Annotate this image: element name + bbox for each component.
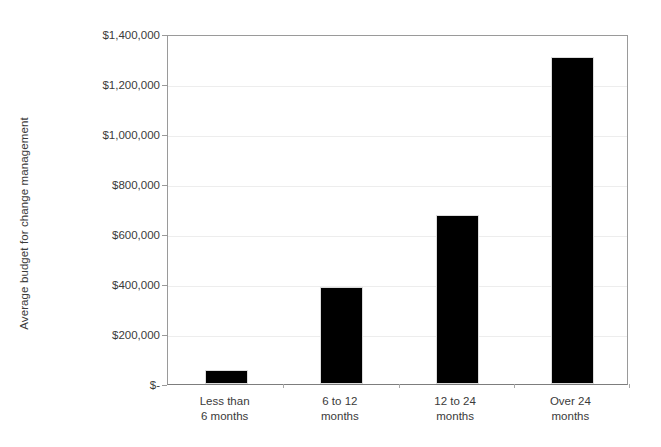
- x-axis-tick-mark: [399, 384, 400, 388]
- y-axis-tick-label: $1,200,000: [52, 79, 160, 91]
- x-axis-tick-mark: [629, 384, 630, 388]
- y-axis-tick-label: $400,000: [52, 279, 160, 291]
- bar: [551, 57, 594, 384]
- x-axis-category-label-line: months: [500, 409, 640, 424]
- y-axis-title: Average budget for change management: [24, 0, 54, 447]
- y-axis-tick-label: $800,000: [52, 179, 160, 191]
- x-axis-tick-mark: [283, 384, 284, 388]
- bar: [436, 215, 479, 385]
- x-axis-category-label-line: Over 24: [500, 394, 640, 409]
- bar: [320, 287, 363, 384]
- y-axis-tick-label: $1,400,000: [52, 29, 160, 41]
- y-axis-tick-label: $-: [52, 379, 160, 391]
- y-axis-tick-mark: [162, 385, 167, 386]
- y-axis-tick-label: $1,000,000: [52, 129, 160, 141]
- x-axis-category-label: Over 24months: [500, 394, 640, 424]
- bar: [205, 370, 248, 385]
- y-axis-tick-label: $200,000: [52, 329, 160, 341]
- bar-chart: Average budget for change management $-$…: [0, 0, 661, 447]
- y-axis-tick-label: $600,000: [52, 229, 160, 241]
- x-axis-tick-mark: [514, 384, 515, 388]
- plot-area: [167, 35, 628, 385]
